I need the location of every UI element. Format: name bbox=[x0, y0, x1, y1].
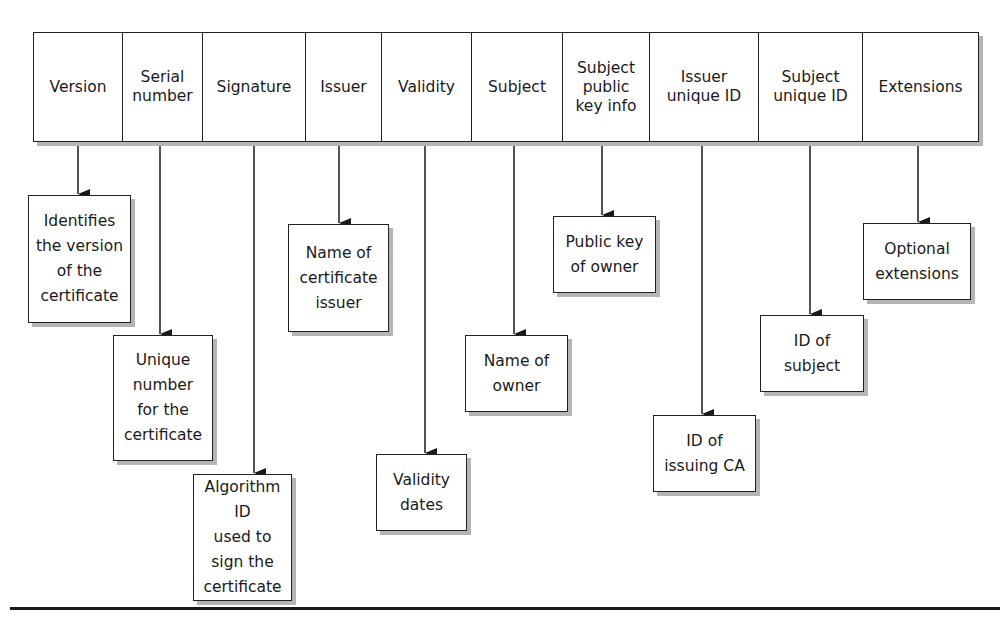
desc-subject: Name of owner bbox=[465, 335, 568, 412]
desc-subject-unique-id: ID of subject bbox=[760, 315, 864, 392]
certificate-structure-diagram: Version Serial number Signature Issuer V… bbox=[0, 0, 1007, 629]
desc-serial-number: Unique number for the certificate bbox=[113, 335, 213, 461]
desc-issuer: Name of certificate issuer bbox=[288, 224, 389, 332]
desc-subject-public-key-info: Public key of owner bbox=[553, 216, 656, 293]
field-subject-unique-id: Subject unique ID bbox=[759, 33, 863, 141]
desc-issuer-unique-id: ID of issuing CA bbox=[653, 415, 756, 492]
desc-extensions: Optional extensions bbox=[863, 223, 971, 300]
field-serial-number: Serial number bbox=[123, 33, 203, 141]
field-subject: Subject bbox=[472, 33, 563, 141]
field-signature: Signature bbox=[203, 33, 306, 141]
field-version: Version bbox=[34, 33, 123, 141]
desc-signature: Algorithm ID used to sign the certificat… bbox=[193, 474, 292, 601]
field-issuer-unique-id: Issuer unique ID bbox=[650, 33, 759, 141]
desc-version: Identifies the version of the certificat… bbox=[28, 195, 131, 323]
field-issuer: Issuer bbox=[306, 33, 382, 141]
field-extensions: Extensions bbox=[863, 33, 978, 141]
bottom-divider bbox=[10, 607, 1000, 610]
desc-validity: Validity dates bbox=[376, 454, 467, 531]
certificate-fields-header: Version Serial number Signature Issuer V… bbox=[33, 32, 979, 142]
field-validity: Validity bbox=[382, 33, 472, 141]
field-subject-public-key-info: Subject public key info bbox=[563, 33, 650, 141]
